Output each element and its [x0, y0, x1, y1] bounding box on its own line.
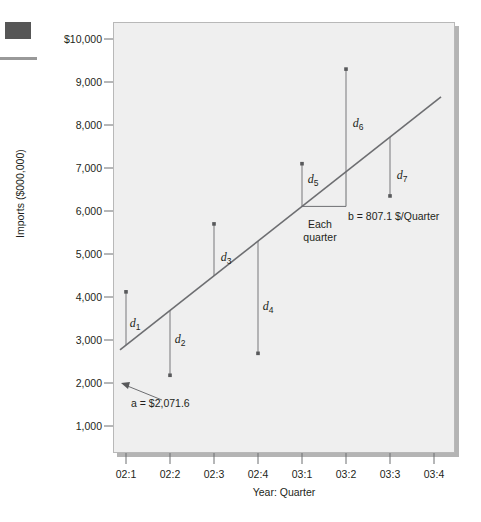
- data-point: [212, 222, 216, 226]
- x-axis-tick-label: 03:1: [292, 468, 312, 480]
- x-axis-tick-label: 02:2: [160, 468, 180, 480]
- residual-label: d7: [397, 168, 408, 184]
- residual-label-subscript: 6: [359, 122, 364, 132]
- data-point: [256, 352, 260, 356]
- intercept-annotation: a = $2,071.6: [131, 397, 190, 409]
- y-axis-tick-label: 9,000: [40, 76, 102, 88]
- y-axis-tick-label: 5,000: [40, 248, 102, 260]
- y-axis-tick-label: 4,000: [40, 291, 102, 303]
- residual-label-subscript: 2: [181, 338, 186, 348]
- residual-label: d5: [308, 172, 319, 188]
- data-point: [344, 67, 348, 71]
- y-axis-tick-label: 3,000: [40, 334, 102, 346]
- chart-figure: Imports ($000,000) Year: Quarter $10,000…: [0, 0, 481, 522]
- data-point: [124, 290, 128, 294]
- x-axis-tick-label: 02:3: [204, 468, 224, 480]
- data-point: [388, 194, 392, 198]
- data-point: [300, 162, 304, 166]
- y-axis-tick-label: 8,000: [40, 119, 102, 131]
- residual-label-subscript: 4: [269, 305, 274, 315]
- x-axis-tick-label: 03:4: [424, 468, 444, 480]
- residual-label-subscript: 3: [227, 256, 232, 266]
- y-axis-tick-label: 7,000: [40, 162, 102, 174]
- run-annotation: Each quarter: [303, 218, 336, 244]
- x-axis-tick-label: 03:3: [380, 468, 400, 480]
- residual-segments: [126, 69, 390, 375]
- y-axis-tick-label: 2,000: [40, 377, 102, 389]
- trend-line: [120, 97, 441, 350]
- slope-annotation: b = 807.1 $/Quarter: [348, 210, 439, 222]
- residual-label: d4: [263, 299, 274, 315]
- y-axis-tick-label: 6,000: [40, 205, 102, 217]
- residual-label: d1: [130, 316, 141, 332]
- x-axis-tick-label: 02:1: [116, 468, 136, 480]
- residual-label: d6: [353, 116, 364, 132]
- x-axis-tick-label: 03:2: [336, 468, 356, 480]
- y-axis-tick-label: 1,000: [40, 420, 102, 432]
- residual-label-subscript: 5: [314, 178, 319, 188]
- data-point: [168, 373, 172, 377]
- run-annotation-line1: Each: [303, 218, 336, 231]
- residual-label: d2: [175, 332, 186, 348]
- x-axis-tick-label: 02:4: [248, 468, 268, 480]
- residual-label-subscript: 7: [403, 174, 408, 184]
- y-axis-tick-label: $10,000: [40, 33, 102, 45]
- residual-label-subscript: 1: [136, 322, 141, 332]
- residual-label: d3: [221, 250, 232, 266]
- run-annotation-line2: quarter: [303, 231, 336, 244]
